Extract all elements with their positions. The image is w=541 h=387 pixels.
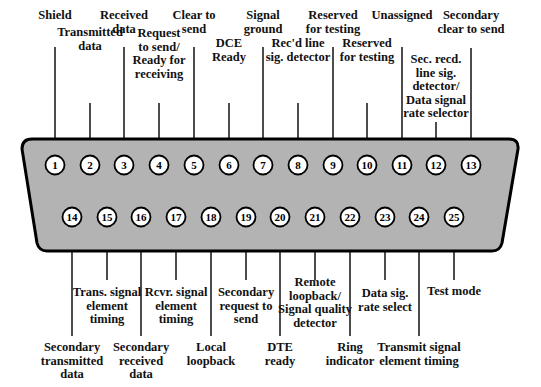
pin-number: 8 xyxy=(295,159,301,171)
pin-22: 22 xyxy=(341,208,360,227)
pin-13: 13 xyxy=(462,156,481,175)
connector-shell xyxy=(22,139,518,251)
pin-number: 6 xyxy=(226,159,232,171)
pin-label-15: Trans. signal element timing xyxy=(73,286,142,327)
pin-number: 14 xyxy=(67,211,79,223)
pin-label-24: Transmit signal element timing xyxy=(377,341,460,368)
pin-2: 2 xyxy=(81,156,100,175)
pin-label-11: Unassigned xyxy=(371,9,432,23)
pin-15: 15 xyxy=(98,208,117,227)
pin-number: 21 xyxy=(310,211,321,223)
pin-number: 16 xyxy=(136,211,148,223)
pin-label-7: Signal ground xyxy=(244,9,283,36)
pin-3: 3 xyxy=(115,156,134,175)
pin-24: 24 xyxy=(410,208,429,227)
pin-number: 1 xyxy=(52,159,58,171)
pin-8: 8 xyxy=(289,156,308,175)
pin-label-9: Reserved for testing xyxy=(306,9,360,36)
pin-number: 23 xyxy=(380,211,392,223)
pin-label-23: Data sig. rate select xyxy=(358,287,412,314)
pin-18: 18 xyxy=(202,208,221,227)
pin-number: 3 xyxy=(121,159,127,171)
pin-5: 5 xyxy=(185,156,204,175)
pin-label-10: Reserved for testing xyxy=(340,37,394,64)
pin-25: 25 xyxy=(445,208,464,227)
pin-number: 10 xyxy=(362,159,374,171)
pin-12: 12 xyxy=(427,156,446,175)
pin-23: 23 xyxy=(376,208,395,227)
pin-label-18: Local loopback xyxy=(187,341,236,368)
pin-label-13: Secondary clear to send xyxy=(437,9,504,36)
pin-label-19: Secondary request to send xyxy=(218,286,274,327)
pin-label-20: DTE ready xyxy=(265,341,295,368)
pin-label-5: Clear to send xyxy=(172,9,215,36)
pin-number: 18 xyxy=(206,211,218,223)
pin-number: 4 xyxy=(156,159,162,171)
pin-14: 14 xyxy=(63,208,82,227)
pin-label-22: Ring indicator xyxy=(326,341,375,368)
pin-label-16: Secondary received data xyxy=(113,341,169,382)
pin-1: 1 xyxy=(46,156,65,175)
pin-label-1: Shield xyxy=(38,9,71,23)
pin-label-14: Secondary transmitted data xyxy=(41,341,104,382)
pin-4: 4 xyxy=(150,156,169,175)
pin-number: 15 xyxy=(102,211,114,223)
pin-label-25: Test mode xyxy=(427,285,481,299)
pin-number: 11 xyxy=(397,159,407,171)
pin-label-12: Sec. recd. line sig. detector/ Data sign… xyxy=(403,53,469,121)
pin-label-8: Rec'd line sig. detector xyxy=(266,37,331,64)
pin-number: 9 xyxy=(330,159,336,171)
pin-number: 25 xyxy=(449,211,461,223)
pin-label-21: Remote loopback/ Signal quality detector xyxy=(278,276,352,330)
pin-21: 21 xyxy=(306,208,325,227)
pin-number: 24 xyxy=(414,211,426,223)
pin-10: 10 xyxy=(358,156,377,175)
pin-number: 2 xyxy=(87,159,93,171)
pin-number: 17 xyxy=(171,211,183,223)
pin-label-17: Rcvr. signal element timing xyxy=(145,286,208,327)
pin-number: 5 xyxy=(191,159,197,171)
pin-20: 20 xyxy=(271,208,290,227)
pin-number: 12 xyxy=(431,159,443,171)
pin-16: 16 xyxy=(132,208,151,227)
pin-11: 11 xyxy=(393,156,412,175)
pin-19: 19 xyxy=(237,208,256,227)
pin-number: 13 xyxy=(466,159,478,171)
pin-17: 17 xyxy=(167,208,186,227)
pin-number: 7 xyxy=(260,159,266,171)
pin-9: 9 xyxy=(324,156,343,175)
pin-7: 7 xyxy=(254,156,273,175)
pin-label-6: DCE Ready xyxy=(212,37,246,64)
pin-6: 6 xyxy=(220,156,239,175)
pin-number: 20 xyxy=(275,211,287,223)
pin-number: 22 xyxy=(345,211,357,223)
pin-number: 19 xyxy=(241,211,253,223)
